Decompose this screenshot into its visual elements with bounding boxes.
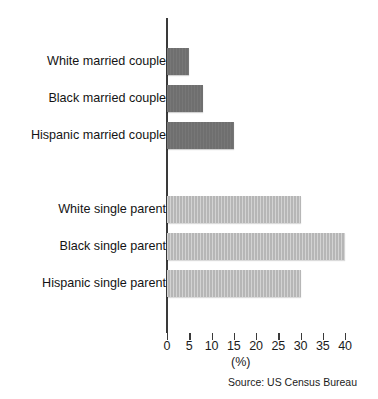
x-axis-unit-label: (%) xyxy=(231,355,250,369)
bar xyxy=(167,233,345,260)
bar xyxy=(167,85,203,112)
source-note: Source: US Census Bureau xyxy=(228,376,357,388)
category-label: White single parent xyxy=(0,202,166,217)
category-label: Hispanic single parent xyxy=(0,276,166,291)
x-axis-tick-label: 40 xyxy=(330,339,360,353)
category-label: White married couple xyxy=(0,54,166,69)
bar xyxy=(167,122,234,149)
category-label: Black married couple xyxy=(0,91,166,106)
bar xyxy=(167,48,189,75)
category-label: Black single parent xyxy=(0,239,166,254)
bar-chart: White married coupleBlack married couple… xyxy=(0,0,378,399)
bar xyxy=(167,270,301,297)
category-label: Hispanic married couple xyxy=(0,128,166,143)
bar xyxy=(167,196,301,223)
